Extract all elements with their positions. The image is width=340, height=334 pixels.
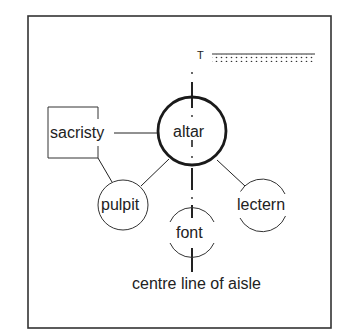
edge-altar-lectern [217,160,245,186]
marker-t-label: T [197,50,204,61]
stippled-wall-bar [212,54,315,62]
edge-sacristy-pulpit [98,158,112,182]
sacristy-label: sacristy [50,125,104,141]
edge-altar-pulpit [141,159,169,186]
lectern-label: lectern [237,197,285,213]
centre-line-axis [191,72,193,272]
pulpit-label: pulpit [101,197,139,213]
altar-label: altar [173,124,204,140]
font-label: font [176,225,203,241]
axis-label: centre line of aisle [132,276,261,292]
